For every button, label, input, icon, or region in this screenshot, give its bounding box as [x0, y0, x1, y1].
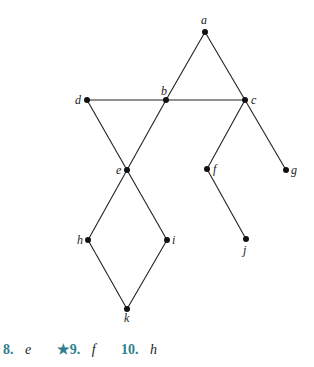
edge-b-e: [127, 100, 166, 170]
edge-a-c: [205, 32, 245, 100]
exercise-answer: h: [150, 342, 157, 357]
node-h: [85, 237, 91, 243]
exercise-8: 8. e: [3, 342, 31, 358]
node-c: [242, 97, 248, 103]
node-label-f: f: [213, 162, 218, 176]
node-label-j: j: [241, 243, 247, 257]
edge-e-h: [88, 170, 127, 240]
exercise-number: 10.: [121, 342, 139, 357]
node-label-h: h: [77, 233, 83, 247]
node-label-b: b: [161, 84, 167, 98]
exercise-9: ★9. f: [57, 341, 96, 358]
hasse-diagram: abcdefghijk: [0, 0, 314, 335]
node-e: [124, 167, 130, 173]
edge-d-e: [87, 100, 127, 170]
node-g: [283, 167, 289, 173]
exercise-number: ★9.: [57, 342, 81, 357]
node-label-d: d: [75, 93, 82, 107]
node-label-e: e: [116, 163, 122, 177]
diagram-nodes: [84, 29, 289, 312]
node-a: [202, 29, 208, 35]
node-label-g: g: [291, 163, 297, 177]
edge-e-i: [127, 170, 167, 240]
exercise-number: 8.: [3, 342, 14, 357]
node-d: [84, 97, 90, 103]
node-label-a: a: [201, 13, 207, 27]
node-f: [204, 166, 210, 172]
edge-f-j: [207, 169, 246, 239]
exercise-answer: f: [92, 342, 96, 357]
edge-a-b: [166, 32, 205, 100]
edge-c-g: [245, 100, 286, 170]
node-label-c: c: [251, 93, 257, 107]
edge-i-k: [127, 240, 167, 309]
node-label-k: k: [124, 311, 130, 325]
edge-h-k: [88, 240, 127, 309]
exercise-list: 8. e ★9. f 10. h: [3, 341, 179, 358]
diagram-labels: abcdefghijk: [75, 13, 297, 325]
exercise-answer: e: [25, 342, 31, 357]
exercise-10: 10. h: [121, 342, 157, 358]
node-i: [164, 237, 170, 243]
node-j: [243, 236, 249, 242]
node-label-i: i: [172, 233, 175, 247]
edge-c-f: [207, 100, 245, 169]
